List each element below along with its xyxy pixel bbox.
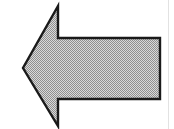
- left-arrow-figure: [0, 0, 174, 129]
- figure-canvas: Left Arrow: [0, 0, 174, 129]
- left-arrow-shape: [23, 6, 160, 126]
